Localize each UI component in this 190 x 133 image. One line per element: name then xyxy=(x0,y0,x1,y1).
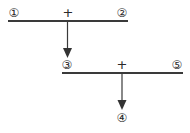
arrows xyxy=(0,0,190,133)
arrow-down-icon-1 xyxy=(63,22,72,58)
arrow-down-icon-2 xyxy=(118,74,127,110)
result-label: ④ xyxy=(117,112,128,124)
row2-plus-sign: + xyxy=(117,59,128,71)
row2-left-label: ③ xyxy=(62,59,73,71)
row2-right-label: ⑤ xyxy=(172,59,183,71)
row2-underline xyxy=(62,72,183,74)
